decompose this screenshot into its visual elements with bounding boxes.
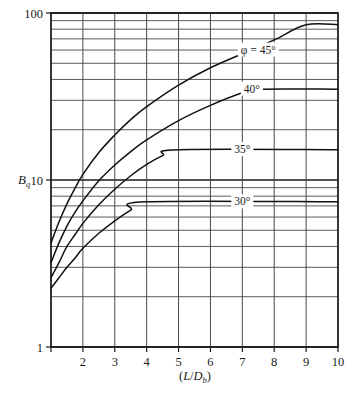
y-tick-label: 100 (24, 7, 43, 21)
x-axis-title: (L/Db) (179, 369, 211, 385)
x-tick-label: 2 (80, 355, 86, 369)
x-tick-label: 5 (175, 355, 181, 369)
chart-figure: 2345678910 110100 φ = 45°40°35°30° Bq (L… (0, 0, 355, 395)
y-axis-title-main: B (18, 172, 26, 187)
annotation-label: 35° (234, 143, 251, 155)
annotation-label: φ = 45° (241, 44, 276, 57)
x-tick-label: 6 (207, 355, 213, 369)
x-tick-label: 3 (112, 355, 118, 369)
annotation-label: 40° (244, 83, 261, 95)
x-tick-label: 9 (303, 355, 309, 369)
chart-background (0, 0, 355, 395)
x-axis-title-close: ) (207, 369, 211, 383)
x-axis-title-L: L (182, 369, 190, 383)
annotation-label: 30° (234, 195, 251, 207)
x-axis-title-D: D (193, 369, 203, 383)
log-linear-chart: 2345678910 110100 φ = 45°40°35°30° Bq (L… (0, 0, 355, 395)
y-tick-label: 10 (31, 174, 44, 188)
x-tick-label: 4 (144, 355, 151, 369)
x-tick-label: 8 (271, 355, 277, 369)
x-tick-label: 7 (239, 355, 245, 369)
svg-text:(L/Db): (L/Db) (179, 369, 211, 385)
y-tick-label: 1 (37, 341, 43, 355)
x-tick-label: 10 (332, 355, 345, 369)
